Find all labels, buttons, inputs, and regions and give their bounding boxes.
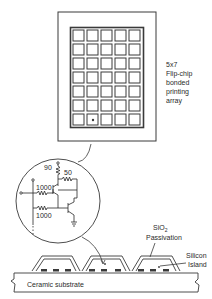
island-label: Island (188, 261, 207, 268)
array-grid-border (71, 28, 144, 128)
array-label: 5x7 Flip-chip bonded printing array (166, 61, 194, 105)
array-grid-cells (73, 30, 140, 125)
passivation-label: Passivation (146, 234, 182, 241)
substrate-label: Ceramic substrate (27, 281, 84, 288)
island-1 (32, 256, 80, 271)
resistor-50-label: 50 (64, 169, 72, 176)
island-2 (82, 256, 130, 271)
island-3 (132, 256, 180, 271)
passivation-leader (150, 243, 155, 257)
bond-pads (41, 269, 169, 272)
resistor-90-label: 90 (44, 164, 52, 171)
resistor-1000-top-label: 1000 (36, 184, 52, 191)
cell-leader-line (78, 144, 91, 162)
sio2-label: SiO2 (153, 224, 168, 233)
resistor-1000-bottom-label: 1000 (36, 212, 52, 219)
silicon-label: Silicon (186, 252, 207, 259)
flip-chip-diagram: 5x7 Flip-chip bonded printing array (0, 0, 212, 299)
silicon-islands (32, 256, 180, 271)
selected-cell-dot (92, 119, 94, 121)
